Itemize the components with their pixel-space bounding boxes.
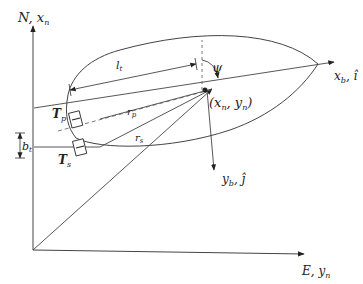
north-axis-label: N, xn [17,10,49,27]
port-thruster-label: Tp [52,107,66,123]
rs-vector-line [100,89,212,147]
rp-label: rp [127,106,137,119]
position-label: (xn, yn) [209,95,252,112]
hull-outline [66,36,318,147]
rs-label: rs [135,132,144,145]
xb-axis-label: xb, î [334,69,359,85]
east-axis [33,250,304,254]
east-axis-label: E, yn [301,264,330,280]
vessel-diagram: N, xn E, yn xb, î yb, ĵ ψ (xn, yn) rp rs… [0,0,363,284]
bt-label: bt [22,140,32,154]
heading-psi-label: ψ [212,60,223,75]
starboard-thruster-label: Ts [58,153,71,169]
yb-axis-label: yb, ĵ [221,172,247,188]
port-thruster [68,111,82,128]
cg-point [203,88,208,93]
diagram-svg: N, xn E, yn xb, î yb, ĵ ψ (xn, yn) rp rs… [0,0,363,284]
xb-axis [34,62,334,108]
lt-label: lt [116,59,123,73]
